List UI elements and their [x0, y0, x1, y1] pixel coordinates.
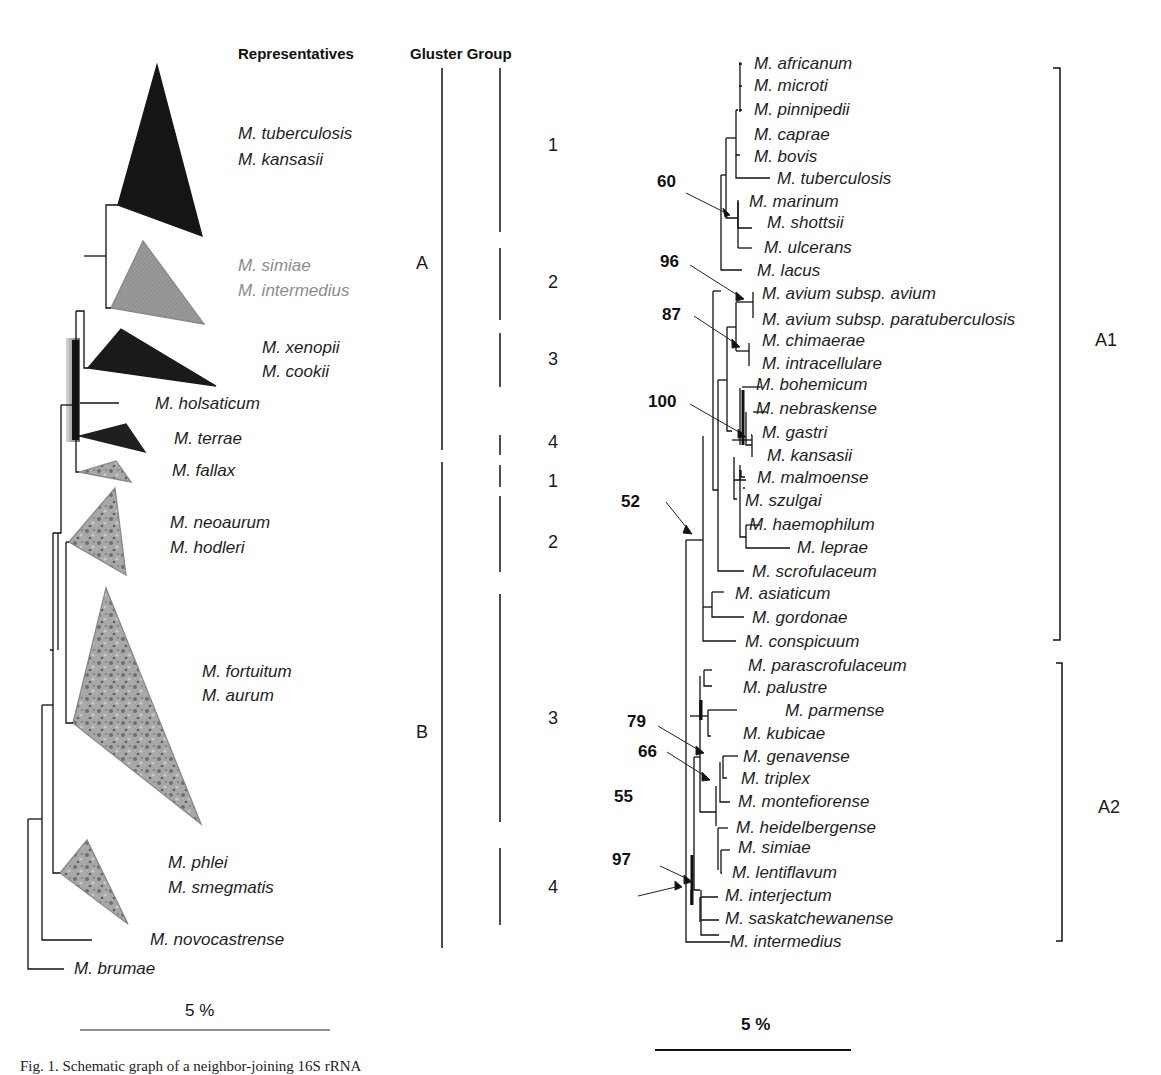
taxon: M. gastri	[762, 423, 827, 443]
bootstrap-52: 52	[621, 492, 640, 512]
taxon: M. pinnipedii	[754, 100, 849, 120]
group-label-b4: 4	[548, 877, 558, 898]
group-label-a4: 4	[548, 432, 558, 453]
taxon: M. avium subsp. paratuberculosis	[762, 310, 1015, 330]
label-m-phlei: M. phlei	[168, 853, 228, 873]
clade-triangle-terrae	[80, 424, 145, 452]
taxon: M. simiae	[738, 838, 811, 858]
bootstrap-87: 87	[662, 305, 681, 325]
clade-triangle-fallax	[79, 461, 131, 482]
taxon: M. kubicae	[743, 724, 825, 744]
label-m-novocastrense: M. novocastrense	[150, 930, 284, 950]
taxon: M. interjectum	[725, 886, 832, 906]
taxon: M. parmense	[785, 701, 884, 721]
label-m-aurum: M. aurum	[202, 686, 274, 706]
cluster-label-a: A	[416, 253, 428, 274]
taxon: M. malmoense	[757, 468, 868, 488]
clade-triangle-simiae	[111, 241, 204, 324]
taxon: M. heidelbergense	[736, 818, 876, 838]
left-scale-label: 5 %	[185, 1001, 214, 1021]
taxon: M. lentiflavum	[732, 863, 837, 883]
bootstrap-97: 97	[612, 850, 631, 870]
label-m-hodleri: M. hodleri	[170, 538, 245, 558]
group-label-a2: 2	[548, 272, 558, 293]
clade-triangle-phlei	[60, 840, 128, 924]
bracket-label-a2: A2	[1098, 797, 1120, 818]
bootstrap-96: 96	[660, 252, 679, 272]
taxon: M. saskatchewanense	[725, 909, 893, 929]
taxon: M. leprae	[797, 538, 868, 558]
label-m-simiae: M. simiae	[238, 256, 311, 276]
label-m-brumae: M. brumae	[74, 959, 155, 979]
taxon: M. triplex	[741, 769, 810, 789]
taxon: M. intermedius	[730, 932, 841, 952]
group-label-b1: 1	[548, 471, 558, 492]
taxon: M. marinum	[749, 192, 839, 212]
bootstrap-79: 79	[627, 712, 646, 732]
group-label-b3: 3	[548, 708, 558, 729]
header-representatives: Representatives	[238, 45, 354, 62]
taxon: M. kansasii	[767, 446, 852, 466]
label-m-intermedius: M. intermedius	[238, 281, 349, 301]
right-scale-label: 5 %	[741, 1015, 770, 1035]
taxon: M. lacus	[757, 261, 820, 281]
taxon: M. bovis	[754, 147, 817, 167]
label-m-tuberculosis: M. tuberculosis	[238, 124, 352, 144]
bootstrap-100: 100	[648, 392, 676, 412]
label-m-cookii: M. cookii	[262, 362, 329, 382]
clade-triangle-tuberculosis	[118, 65, 202, 236]
label-m-fallax: M. fallax	[172, 461, 235, 481]
figure-caption: Fig. 1. Schematic graph of a neighbor-jo…	[20, 1058, 361, 1075]
group-label-a3: 3	[548, 349, 558, 370]
taxon: M. nebraskense	[756, 399, 877, 419]
taxon: M. avium subsp. avium	[762, 284, 936, 304]
taxon: M. africanum	[754, 54, 852, 74]
taxon: M. szulgai	[745, 491, 822, 511]
taxon: M. asiaticum	[735, 584, 830, 604]
bracket-label-a1: A1	[1095, 330, 1117, 351]
taxon: M. montefiorense	[738, 792, 869, 812]
taxon: M. haemophilum	[749, 515, 875, 535]
label-m-fortuitum: M. fortuitum	[202, 662, 292, 682]
taxon: M. tuberculosis	[777, 169, 891, 189]
taxon: M. intracellulare	[762, 354, 882, 374]
label-m-holsaticum: M. holsaticum	[155, 394, 260, 414]
label-m-xenopii: M. xenopii	[262, 338, 339, 358]
bootstrap-66: 66	[638, 742, 657, 762]
taxon: M. bohemicum	[756, 375, 867, 395]
label-m-kansasii: M. kansasii	[238, 150, 323, 170]
taxon: M. microti	[754, 76, 828, 96]
cluster-label-b: B	[416, 722, 428, 743]
group-brackets	[1053, 68, 1062, 941]
bootstrap-arrows	[638, 193, 746, 896]
taxon: M. palustre	[743, 678, 827, 698]
header-cluster-group: Gluster Group	[410, 45, 512, 62]
taxon: M. parascrofulaceum	[748, 656, 907, 676]
bootstrap-60: 60	[657, 172, 676, 192]
cluster-lines	[442, 68, 500, 948]
taxon: M. gordonae	[752, 608, 847, 628]
label-m-neoaurum: M. neoaurum	[170, 513, 270, 533]
clade-triangle-fortuitum	[73, 588, 201, 824]
taxon: M. caprae	[754, 125, 830, 145]
bootstrap-55: 55	[614, 787, 633, 807]
taxon: M. chimaerae	[762, 331, 865, 351]
taxon: M. shottsii	[767, 213, 844, 233]
taxon: M. ulcerans	[764, 238, 852, 258]
label-m-smegmatis: M. smegmatis	[168, 878, 274, 898]
clade-triangle-neoaurum	[69, 488, 126, 575]
taxon: M. conspicuum	[745, 632, 859, 652]
group-label-b2: 2	[548, 532, 558, 553]
label-m-terrae: M. terrae	[174, 429, 242, 449]
taxon: M. scrofulaceum	[752, 562, 877, 582]
clade-triangle-xenopii	[88, 329, 216, 386]
group-label-a1: 1	[548, 135, 558, 156]
taxon: M. genavense	[743, 747, 850, 767]
